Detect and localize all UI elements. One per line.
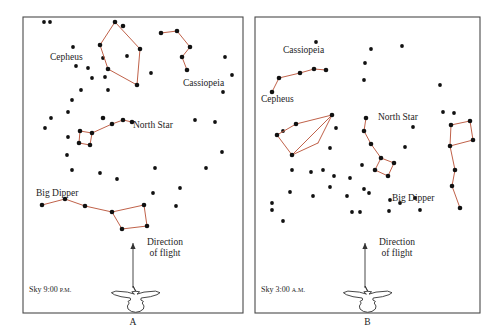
constellation-star (294, 122, 299, 127)
label-direction-of-flight-a: Directionof flight (147, 237, 183, 258)
field-star (42, 20, 46, 24)
field-star (151, 191, 155, 195)
field-star (403, 145, 407, 149)
constellation-star (298, 71, 303, 76)
panel-caption-a: A (128, 317, 138, 328)
label-cepheus-b: Cepheus (261, 94, 294, 105)
field-star (281, 219, 285, 223)
constellation-star (98, 43, 103, 48)
constellation-star (121, 118, 126, 123)
field-star (221, 90, 225, 94)
field-star (452, 111, 456, 115)
constellation-star (121, 24, 126, 29)
field-star (43, 126, 47, 130)
field-star (441, 110, 445, 114)
constellation-star (362, 129, 367, 134)
field-star (362, 187, 366, 191)
field-star (328, 146, 332, 150)
constellation-star (373, 168, 378, 173)
field-star (103, 75, 107, 79)
constellation-star (113, 20, 118, 25)
star-chart-figure: CepheusCassiopeiaNorth StarBig DipperDir… (0, 0, 497, 335)
panel-caption-b: B (363, 317, 373, 328)
field-star (230, 73, 234, 77)
field-star (74, 64, 78, 68)
constellation-star (290, 153, 295, 158)
constellation-star (471, 138, 476, 143)
field-star (400, 44, 404, 48)
constellation-star (175, 29, 180, 34)
field-star (48, 20, 52, 24)
field-star (314, 40, 318, 44)
field-star (348, 176, 352, 180)
constellation-star (379, 156, 384, 161)
direction-line1: Direction (379, 237, 415, 248)
panel-b (255, 17, 480, 313)
field-star (65, 153, 69, 157)
field-star (153, 166, 157, 170)
field-star (369, 47, 373, 51)
field-star (360, 163, 364, 167)
constellation-star (185, 68, 190, 73)
field-star (418, 208, 422, 212)
label-sky-time-a: Sky 9:00 P.M. (29, 286, 71, 295)
field-star (86, 66, 90, 70)
label-north-star-b: North Star (378, 112, 418, 123)
field-star (332, 174, 336, 178)
constellation-star (180, 55, 185, 60)
field-star (213, 120, 217, 124)
constellation-star (386, 174, 391, 179)
field-star (270, 208, 274, 212)
field-star (270, 201, 274, 205)
constellation-star (77, 141, 82, 146)
field-star (350, 210, 354, 214)
field-star (70, 168, 74, 172)
field-star (220, 150, 224, 154)
constellation-star (145, 224, 150, 229)
field-star (311, 194, 315, 198)
constellation-star (83, 204, 88, 209)
field-star (149, 71, 153, 75)
field-star (345, 194, 349, 198)
field-star (328, 185, 332, 189)
field-star (309, 170, 313, 174)
constellation-star (101, 116, 106, 121)
constellation-star (392, 161, 397, 166)
sky-time-text: Sky 3:00 (261, 285, 292, 294)
label-big-dipper-a: Big Dipper (36, 188, 78, 199)
field-star (411, 125, 415, 129)
constellation-star (110, 122, 115, 127)
constellation-star (364, 116, 369, 121)
field-star (290, 168, 294, 172)
field-star (49, 116, 53, 120)
field-star (204, 166, 208, 170)
constellation-star (453, 168, 458, 173)
field-star (98, 171, 102, 175)
field-star (90, 76, 94, 80)
sky-time-meridiem: A.M. (292, 287, 305, 293)
label-sky-time-b: Sky 3:00 A.M. (261, 286, 305, 295)
constellation-star (120, 227, 125, 232)
constellation-star (369, 142, 374, 147)
field-star (363, 61, 367, 65)
field-star (66, 135, 70, 139)
constellation-star (275, 133, 280, 138)
label-north-star-a: North Star (133, 120, 173, 131)
direction-line2: of flight (379, 248, 415, 259)
field-star (66, 110, 70, 114)
field-star (193, 118, 197, 122)
sky-canvas (0, 0, 497, 335)
direction-line2: of flight (147, 248, 183, 259)
label-cepheus-a: Cepheus (50, 52, 83, 63)
field-star (174, 204, 178, 208)
constellation-star (330, 113, 335, 118)
constellation-star (324, 68, 329, 73)
constellation-star (458, 206, 463, 211)
field-star (115, 177, 119, 181)
field-star (70, 98, 74, 102)
constellation-star (449, 123, 454, 128)
constellation-star (135, 83, 140, 88)
constellation-star (106, 67, 111, 72)
label-cassiopeia-b: Cassiopeia (283, 45, 324, 56)
constellation-star (78, 129, 83, 134)
